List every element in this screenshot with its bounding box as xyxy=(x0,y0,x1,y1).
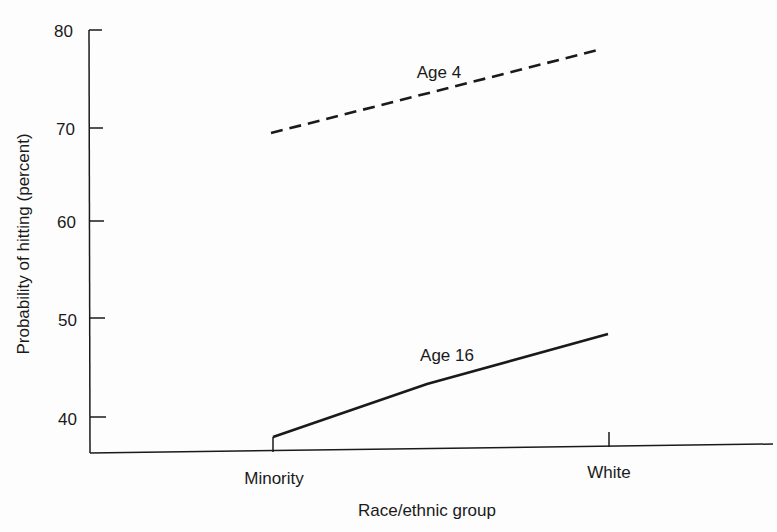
x-tick-label-white: White xyxy=(587,463,630,482)
y-tick-label-50: 50 xyxy=(58,311,77,330)
y-tick-label-70: 70 xyxy=(56,120,75,139)
y-ticks xyxy=(89,30,106,417)
series-age-16-label: Age 16 xyxy=(420,346,474,365)
x-axis xyxy=(90,444,773,453)
y-tick-label-40: 40 xyxy=(58,410,77,429)
x-axis-title: Race/ethnic group xyxy=(358,501,496,520)
y-axis xyxy=(89,30,90,453)
x-tick-label-minority: Minority xyxy=(244,469,304,488)
line-chart: 80 70 60 50 40 Minority White Age 4 Age … xyxy=(0,0,777,532)
series-age-4-label: Age 4 xyxy=(417,63,461,82)
y-axis-title: Probability of hitting (percent) xyxy=(14,133,33,354)
y-tick-label-60: 60 xyxy=(57,213,76,232)
y-tick-label-80: 80 xyxy=(54,22,73,41)
